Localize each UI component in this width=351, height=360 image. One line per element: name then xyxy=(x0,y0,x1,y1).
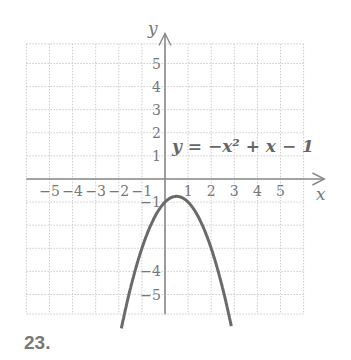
parabola-graph: −5−4−3−2−11234554321−1−4−5 y = −x² + x −… xyxy=(0,0,351,360)
svg-text:3: 3 xyxy=(152,102,161,118)
x-axis-label: x xyxy=(316,184,326,204)
parabola-curve xyxy=(121,196,231,328)
svg-text:−5: −5 xyxy=(140,287,161,303)
svg-text:1: 1 xyxy=(184,183,193,199)
equation-label: y = −x² + x − 1 xyxy=(171,136,314,156)
svg-text:2: 2 xyxy=(207,183,216,199)
svg-text:1: 1 xyxy=(152,148,161,164)
svg-text:−1: −1 xyxy=(140,194,161,210)
svg-text:−2: −2 xyxy=(108,183,129,199)
svg-text:5: 5 xyxy=(276,183,285,199)
y-axis-label: y xyxy=(147,18,158,38)
axes xyxy=(26,33,324,314)
svg-text:−4: −4 xyxy=(62,183,83,199)
svg-text:4: 4 xyxy=(152,79,161,95)
svg-text:−4: −4 xyxy=(140,263,161,279)
svg-text:3: 3 xyxy=(230,183,239,199)
svg-text:5: 5 xyxy=(152,56,161,72)
svg-text:2: 2 xyxy=(152,125,161,141)
problem-number: 23. xyxy=(24,332,50,354)
svg-text:−5: −5 xyxy=(39,183,60,199)
svg-text:4: 4 xyxy=(253,183,262,199)
svg-text:−3: −3 xyxy=(85,183,106,199)
